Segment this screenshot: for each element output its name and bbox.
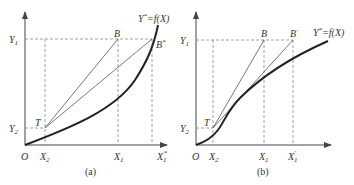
label-T: T [35,117,42,128]
production-curve [196,41,328,145]
label-x1: X1 [113,151,124,164]
caption-a: (a) [85,166,96,178]
label-x1-prime: X1' [287,149,298,164]
label-y1: Y1 [180,35,189,48]
line-T-B [45,39,118,128]
label-x2: X2 [39,151,50,164]
label-curve: Y*=f(X) [313,26,345,39]
label-x1-star: X1* [156,149,168,164]
panel-a: Y1 Y2 O X2 X1 X1* T B B* Y*=f(X) (a) [9,12,170,178]
label-B: B [114,28,120,39]
label-origin: O [192,151,199,162]
label-y2: Y2 [9,123,19,136]
label-B-star: B* [156,38,166,50]
label-origin: O [21,151,28,162]
label-T: T [204,117,211,128]
label-B-prime: B' [290,28,298,39]
label-y2: Y2 [180,123,190,136]
panel-b: Y1 Y2 O X2 X1 X1' T B B' Y*=f(X) (b) [180,12,345,178]
line-T-Bprime [213,40,293,128]
caption-b: (b) [257,166,269,178]
line-T-Bstar [45,39,152,128]
label-x2: X2 [208,151,219,164]
label-B: B [261,28,267,39]
label-curve: Y*=f(X) [138,12,170,25]
label-x1: X1 [258,151,269,164]
diagram-canvas: Y1 Y2 O X2 X1 X1* T B B* Y*=f(X) (a) Y1 … [0,0,354,185]
label-y1: Y1 [9,34,18,47]
